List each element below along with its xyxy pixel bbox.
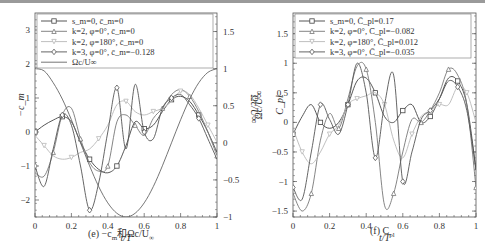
caption-left-rest: 和Ωc/U <box>117 228 149 239</box>
legend-entry: s_m=0, C̄_pl=0.17 <box>330 16 394 26</box>
x-tick-label: 1 <box>474 221 479 231</box>
y-tick-label: 1 <box>26 93 31 103</box>
y-right-tick-label: 1 <box>223 64 228 74</box>
y-tick-label: −1 <box>20 161 30 171</box>
y-right-tick-label: 0.5 <box>223 101 235 111</box>
chart-panel-f: 00.20.40.60.81−1.5−1−0.500.511.5t/TC_plΩ… <box>253 13 478 243</box>
legend-entry: Ωc/U∞ <box>72 57 97 67</box>
y-right-tick-label: −1 <box>223 212 233 222</box>
legend-entry: k=2, φ=180°, C̄_pl=0.012 <box>330 37 418 47</box>
caption-left-text: (e) −c <box>88 228 112 239</box>
y-right-tick-label: −0.5 <box>223 175 240 185</box>
y-tick-label: 2 <box>26 59 31 69</box>
y-right-tick-label: 0 <box>223 138 228 148</box>
series-line <box>35 69 217 217</box>
y-axis-label: C_pl <box>274 95 285 115</box>
legend: s_m=0, C̄_pl=0.17k=2, φ=0°, C̄_pl=−0.082… <box>295 14 471 58</box>
series-line <box>35 96 217 173</box>
legend-entry: s_m=0, c̄_m=0 <box>72 16 123 26</box>
caption-right-sub: pl <box>389 231 394 239</box>
y-tick-label: −1 <box>278 177 288 187</box>
x-tick-label: 0.2 <box>66 221 77 231</box>
legend-entry: k=2, φ=0°, c̄_m=0 <box>72 26 135 36</box>
y-tick-label: 0 <box>284 117 289 127</box>
x-tick-label: 1 <box>215 221 220 231</box>
x-tick-label: 0 <box>291 221 296 231</box>
x-tick-label: 0.8 <box>434 221 446 231</box>
caption-right: (f) Cpl <box>370 225 395 239</box>
y-tick-label: −1.5 <box>272 206 289 216</box>
series-line <box>293 63 476 200</box>
legend-entry: k=3, φ=0°, C̄_pl=−0.035 <box>330 47 414 57</box>
caption-right-text: (f) C <box>370 225 389 236</box>
x-tick-label: 0.2 <box>324 221 335 231</box>
x-tick-label: 0.8 <box>175 221 187 231</box>
caption-left-sub-inf: ∞ <box>149 234 154 242</box>
series-line <box>293 62 476 211</box>
caption-left: (e) −cm和Ωc/U∞ <box>88 225 154 242</box>
y-axis-label: −c_m <box>15 93 26 116</box>
y-axis-label-extra: Ωc/U∞ <box>253 91 264 120</box>
legend-entry: k=2, φ=0°, C̄_pl=−0.082 <box>330 26 414 36</box>
x-tick-label: 0 <box>33 221 38 231</box>
legend-entry: k=3, φ=0°, c̄_m=−0.128 <box>72 47 155 57</box>
y-tick-label: 1 <box>284 58 289 68</box>
y-tick-label: 1.5 <box>277 29 289 39</box>
y-tick-label: −2 <box>20 195 30 205</box>
legend-entry: k=2, φ=180°, c̄_m=0 <box>72 37 143 47</box>
y-tick-label: 3 <box>26 25 31 35</box>
legend: s_m=0, c̄_m=0k=2, φ=0°, c̄_m=0k=2, φ=180… <box>37 14 213 68</box>
y-tick-label: −0.5 <box>272 147 289 157</box>
y-right-tick-label: 1.5 <box>223 27 235 37</box>
y-tick-label: 0 <box>26 127 31 137</box>
chart-canvas: 00.20.40.60.81−2−10123−1−0.500.511.5Ωc/U… <box>0 0 485 244</box>
chart-panel-e: 00.20.40.60.81−2−10123−1−0.500.511.5Ωc/U… <box>15 13 260 243</box>
x-tick-label: 0.6 <box>397 221 409 231</box>
